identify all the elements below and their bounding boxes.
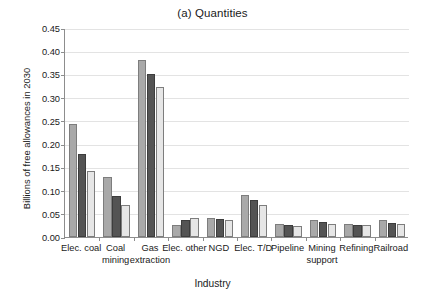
y-tick-mark [61,29,65,30]
y-tick-label: 0.45 [42,24,60,34]
y-tick-label: 0.25 [42,117,60,127]
x-tick-label: NGD [208,243,229,255]
y-tick-label: 0.30 [42,94,60,104]
bar [225,220,233,237]
bar [310,220,318,237]
bar [69,124,77,237]
y-tick-label: 0.10 [42,187,60,197]
x-tick-mark [306,237,307,241]
y-tick-mark [61,98,65,99]
bar-group [241,29,267,237]
bar [112,196,120,237]
bar [293,226,301,237]
x-tick-label: Elec. coal [61,243,101,255]
x-tick-mark [375,237,376,241]
bar [379,220,387,237]
bar [259,205,267,238]
x-tick-mark [340,237,341,241]
bar [103,177,111,237]
x-tick-label: Railroad [373,243,408,255]
y-tick-mark [61,214,65,215]
chart-figure: (a) Quantities Billions of free allowanc… [0,0,425,307]
x-tick-label: Refining [339,243,373,255]
y-tick-mark [61,238,65,239]
x-axis-title: Industry [0,278,425,289]
y-tick-label: 0.00 [42,233,60,243]
x-tick-mark [237,237,238,241]
bar-group [69,29,95,237]
x-tick-label: Pipeline [271,243,304,255]
bar-group [138,29,164,237]
bar [87,171,95,237]
bar [344,224,352,237]
bar-group [379,29,405,237]
y-tick-mark [61,75,65,76]
y-tick-mark [61,168,65,169]
bar [121,205,129,238]
x-tick-mark [271,237,272,241]
plot-area: 0.000.050.100.150.200.250.300.350.400.45 [64,29,408,238]
bar [138,60,146,237]
bar [172,225,180,237]
chart-title: (a) Quantities [0,7,425,19]
bar-group [172,29,198,237]
bar [319,222,327,237]
bar [388,223,396,237]
bar [250,200,258,237]
x-tick-label: Elec. T/D [234,243,272,255]
bar [181,220,189,237]
y-tick-mark [61,145,65,146]
x-tick-mark [134,237,135,241]
y-tick-label: 0.05 [42,210,60,220]
y-tick-label: 0.15 [42,163,60,173]
x-tick-label: Elec. other [162,243,206,255]
bar [362,225,370,237]
bar [353,225,361,237]
bar-group [344,29,370,237]
y-tick-mark [61,191,65,192]
y-tick-label: 0.40 [42,47,60,57]
bar-group [310,29,336,237]
x-tick-label: Miningsupport [306,243,337,266]
y-tick-label: 0.35 [42,70,60,80]
bar [207,218,215,237]
x-tick-label: Coalmining [102,243,129,266]
bar [147,74,155,237]
bar [397,224,405,237]
bar [190,218,198,237]
bar [328,224,336,237]
x-tick-mark [168,237,169,241]
bar [275,224,283,237]
x-tick-mark [99,237,100,241]
x-tick-mark [203,237,204,241]
bar [241,195,249,237]
bar-group [207,29,233,237]
bar-group [103,29,129,237]
bar [78,154,86,237]
y-tick-mark [61,121,65,122]
bar [156,87,164,237]
bar [284,225,292,237]
y-tick-mark [61,52,65,53]
bar [216,219,224,237]
y-axis-title: Billions of free allowances in 2030 [21,34,32,244]
bar-group [275,29,301,237]
y-tick-label: 0.20 [42,140,60,150]
